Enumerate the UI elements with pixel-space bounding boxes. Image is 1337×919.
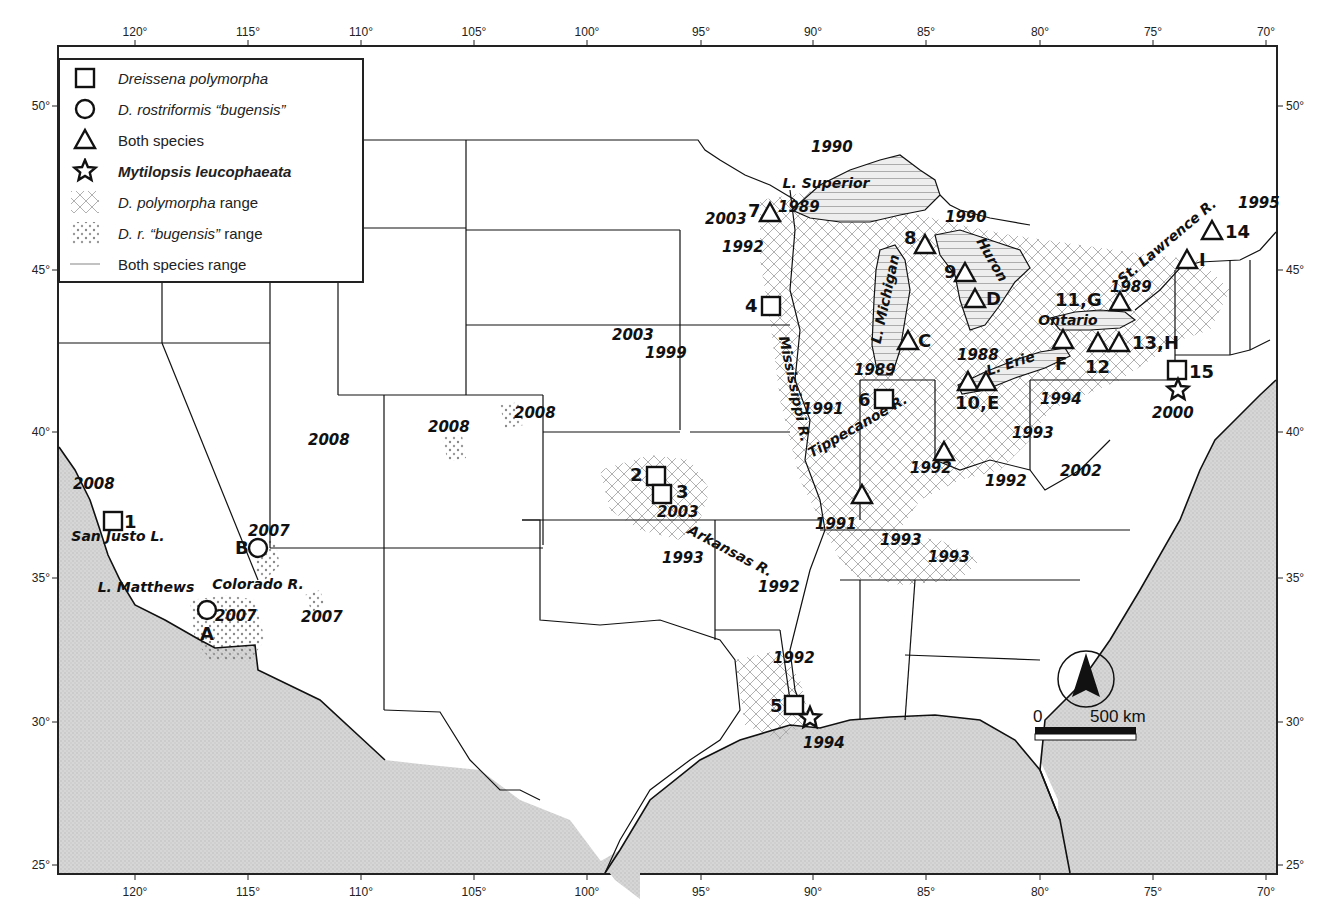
square-icon xyxy=(785,696,803,714)
year-label: 1992 xyxy=(773,649,815,667)
svg-text:105°: 105° xyxy=(462,25,487,39)
svg-text:120°: 120° xyxy=(123,885,148,899)
square-icon xyxy=(1168,361,1186,379)
site-label: 5 xyxy=(770,695,783,716)
svg-text:80°: 80° xyxy=(1031,885,1049,899)
site-label: I xyxy=(1199,249,1206,270)
svg-text:0: 0 xyxy=(1033,707,1042,726)
triangle-site-marker: 11,G xyxy=(1055,289,1130,310)
site-label: F xyxy=(1055,353,1067,374)
square-icon xyxy=(875,390,893,408)
site-label: 12 xyxy=(1085,356,1110,377)
legend-item-crosshatch: D. polymorpha range xyxy=(68,188,258,216)
axis-left-labels: 50° 45° 40° 35° 30° 25° xyxy=(32,99,50,872)
svg-text:105°: 105° xyxy=(462,885,487,899)
svg-text:500 km: 500 km xyxy=(1090,707,1146,726)
legend-item-star: Mytilopsis leucophaeata xyxy=(68,157,291,185)
square-site-marker: 3 xyxy=(653,481,689,503)
year-label: 1993 xyxy=(662,549,704,567)
svg-text:25°: 25° xyxy=(32,858,50,872)
legend-label: Dreissena polymorpha xyxy=(118,70,268,87)
square-icon xyxy=(647,467,665,485)
square-site-marker: 6 xyxy=(858,389,893,410)
year-label: 1993 xyxy=(1012,424,1054,442)
year-label: 1991 xyxy=(815,515,857,533)
svg-text:30°: 30° xyxy=(32,715,50,729)
svg-text:25°: 25° xyxy=(1286,858,1304,872)
year-label: 1992 xyxy=(910,459,952,477)
svg-text:30°: 30° xyxy=(1286,715,1304,729)
year-label: 2000 xyxy=(1152,404,1194,422)
site-label: 10,E xyxy=(955,392,999,413)
svg-text:95°: 95° xyxy=(692,25,710,39)
site-label: 4 xyxy=(745,295,758,316)
site-label: 3 xyxy=(676,481,689,502)
svg-text:35°: 35° xyxy=(1286,571,1304,585)
legend-item-dots: D. r. “bugensis” range xyxy=(68,219,263,247)
site-label: B xyxy=(235,537,249,558)
svg-text:85°: 85° xyxy=(917,885,935,899)
site-label: 2 xyxy=(630,464,643,485)
year-label: 1999 xyxy=(645,344,687,362)
svg-text:115°: 115° xyxy=(236,25,260,39)
svg-text:85°: 85° xyxy=(917,25,935,39)
legend-item-triangle: Both species xyxy=(68,126,204,154)
site-label: 15 xyxy=(1189,361,1214,382)
triangle-icon xyxy=(68,127,102,153)
triangle-site-marker: 14 xyxy=(1202,221,1250,242)
site-label: 1 xyxy=(124,511,137,532)
svg-text:110°: 110° xyxy=(349,25,373,39)
square-icon xyxy=(653,485,671,503)
svg-text:100°: 100° xyxy=(575,885,600,899)
legend-label: Mytilopsis leucophaeata xyxy=(118,163,291,180)
year-label: 2008 xyxy=(308,431,350,449)
star-icon xyxy=(68,158,102,184)
year-label: 1994 xyxy=(803,734,845,752)
year-label: 1992 xyxy=(758,578,800,596)
lines-icon xyxy=(68,251,102,277)
svg-text:70°: 70° xyxy=(1257,885,1275,899)
legend-label: D. r. “bugensis” range xyxy=(118,225,263,242)
legend-label: D. rostriformis “bugensis” xyxy=(118,101,286,118)
square-site-marker: 15 xyxy=(1168,361,1214,382)
svg-text:90°: 90° xyxy=(804,25,822,39)
legend-item-lines: Both species range xyxy=(68,250,246,278)
site-label: 8 xyxy=(904,227,917,248)
square-icon xyxy=(104,512,122,530)
svg-text:100°: 100° xyxy=(575,25,600,39)
site-label: C xyxy=(918,330,931,351)
site-label: A xyxy=(200,623,214,644)
square-site-marker: 4 xyxy=(745,295,780,316)
square-site-marker: 1 xyxy=(104,511,137,532)
site-label: 11,G xyxy=(1055,289,1102,310)
circle-icon xyxy=(198,601,216,619)
svg-text:110°: 110° xyxy=(349,885,373,899)
circle-icon xyxy=(249,539,267,557)
legend-item-circle: D. rostriformis “bugensis” xyxy=(68,95,286,123)
triangle-site-marker: 13,H xyxy=(1109,332,1179,353)
svg-text:115°: 115° xyxy=(236,885,260,899)
svg-text:75°: 75° xyxy=(1144,885,1162,899)
year-label: 2007 xyxy=(215,607,257,625)
year-label: 1989 xyxy=(778,198,820,216)
year-label: 1993 xyxy=(880,531,922,549)
svg-text:45°: 45° xyxy=(32,263,50,277)
year-label: 1990 xyxy=(811,138,853,156)
place-label: Ontario xyxy=(1038,312,1098,328)
svg-text:50°: 50° xyxy=(1286,99,1304,113)
square-site-marker: 2 xyxy=(630,464,665,485)
year-label: 2008 xyxy=(73,475,115,493)
svg-text:45°: 45° xyxy=(1286,263,1304,277)
year-label: 1990 xyxy=(945,208,987,226)
place-label: L. Superior xyxy=(783,175,871,191)
svg-text:70°: 70° xyxy=(1257,25,1275,39)
year-label: 2007 xyxy=(301,608,343,626)
legend-label: Both species range xyxy=(118,256,246,273)
svg-text:80°: 80° xyxy=(1031,25,1049,39)
year-label: 2008 xyxy=(514,404,556,422)
place-label: Colorado R. xyxy=(212,576,304,592)
legend: Dreissena polymorphaD. rostriformis “bug… xyxy=(58,58,364,283)
legend-label: D. polymorpha range xyxy=(118,194,258,211)
year-label: 2008 xyxy=(428,418,470,436)
circle-site-marker: A xyxy=(198,601,216,644)
